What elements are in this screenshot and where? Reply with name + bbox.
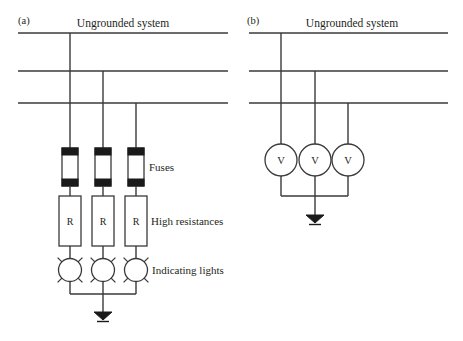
panel-a: (a) Ungrounded system xyxy=(18,15,228,322)
figure-container: (a) Ungrounded system xyxy=(0,0,463,341)
earth-ground-icon xyxy=(94,312,112,320)
resistor-3: R xyxy=(125,196,147,246)
lamp-ray xyxy=(78,258,82,262)
resistor-1: R xyxy=(59,196,81,246)
lamp-ray xyxy=(124,258,128,262)
lamp-ray xyxy=(144,258,148,262)
lamp-body xyxy=(92,259,115,282)
fuse-3 xyxy=(128,148,144,186)
panel-a-label: (a) xyxy=(18,15,30,27)
indicating-lights-label: Indicating lights xyxy=(152,264,224,276)
lamp-ray xyxy=(91,258,95,262)
fuse-cap-bottom xyxy=(62,179,78,186)
earth-ground-icon xyxy=(306,215,324,223)
lamp-ray xyxy=(91,278,95,282)
indicating-lamp-1 xyxy=(58,258,83,283)
voltmeter-1: V xyxy=(265,144,297,176)
panel-a-bus-lines xyxy=(18,33,228,103)
lamp-ray xyxy=(144,278,148,282)
resistor-symbol: R xyxy=(67,216,74,227)
ground-symbol-a xyxy=(94,312,112,322)
indicating-lamp-2 xyxy=(91,258,116,283)
panel-b-title: Ungrounded system xyxy=(306,17,398,30)
resistor-2: R xyxy=(92,196,114,246)
ground-symbol-b xyxy=(306,215,324,225)
panel-b-bus-lines xyxy=(249,33,448,103)
lamp-body xyxy=(59,259,82,282)
high-resistances-label: High resistances xyxy=(151,215,223,227)
indicating-lamp-3 xyxy=(124,258,149,283)
lamp-ray xyxy=(58,258,62,262)
fuse-cap-bottom xyxy=(95,179,111,186)
fuse-cap-top xyxy=(62,148,78,155)
panel-a-title: Ungrounded system xyxy=(77,17,169,30)
voltmeter-2: V xyxy=(299,144,331,176)
panel-b-label: (b) xyxy=(247,15,260,27)
meter-symbol: V xyxy=(311,155,319,166)
lamp-ray xyxy=(124,278,128,282)
lamp-ray xyxy=(111,278,115,282)
fuses-label: Fuses xyxy=(149,161,174,173)
panel-b-neutral-tie xyxy=(281,176,348,215)
panel-b-taps xyxy=(281,33,348,144)
lamp-body xyxy=(125,259,148,282)
meter-symbol: V xyxy=(277,155,285,166)
panel-a-fuse-to-resistor-wires xyxy=(70,186,136,196)
meter-symbol: V xyxy=(344,155,352,166)
panel-a-neutral-tie xyxy=(70,282,136,313)
panel-a-taps xyxy=(70,33,136,148)
fuse-2 xyxy=(95,148,111,186)
fuse-1 xyxy=(62,148,78,186)
lamp-ray xyxy=(111,258,115,262)
lamp-ray xyxy=(58,278,62,282)
resistor-symbol: R xyxy=(133,216,140,227)
fuse-cap-bottom xyxy=(128,179,144,186)
panel-a-resistor-to-lamp-wires xyxy=(70,246,136,258)
resistor-symbol: R xyxy=(100,216,107,227)
fuse-cap-top xyxy=(95,148,111,155)
voltmeter-3: V xyxy=(332,144,364,176)
lamp-ray xyxy=(78,278,82,282)
circuit-diagram-svg: (a) Ungrounded system xyxy=(0,0,463,341)
fuse-cap-top xyxy=(128,148,144,155)
panel-b: (b) Ungrounded system V V xyxy=(247,15,448,225)
